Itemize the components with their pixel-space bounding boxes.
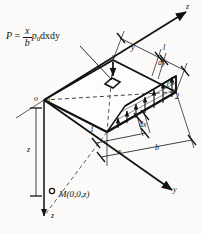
dimension-label-b: b	[155, 144, 159, 152]
corner-label-2-right: 2	[175, 93, 179, 101]
figure-canvas: P = xbp0dxdy z y z o 1 1 2 2 p0 y l dy x…	[0, 0, 201, 234]
peak-pressure-label: p0	[167, 78, 174, 87]
pressure-formula: P = xbp0dxdy	[6, 26, 60, 48]
axis-label-z-top: z	[186, 3, 189, 11]
dimension-label-l: l	[163, 44, 165, 52]
corner-label-1-left: 1	[47, 96, 51, 104]
dimension-label-dy: dy	[158, 59, 166, 67]
corner-label-1-front: 1	[90, 126, 94, 134]
corner-label-2-top: 2	[111, 55, 115, 63]
dimension-label-x: x	[118, 148, 122, 156]
dimension-line-left-z	[30, 108, 42, 196]
dimension-label-dx: dx	[139, 121, 147, 129]
axis-label-z-bottom: z	[51, 212, 54, 220]
dimension-label-z-left: z	[27, 146, 30, 154]
dimension-label-y: y	[131, 44, 135, 52]
axis-label-y: y	[173, 186, 177, 194]
origin-label: o	[34, 95, 38, 103]
point-label-m: M(0,0,z)	[59, 190, 90, 199]
point-m-marker	[49, 188, 54, 193]
